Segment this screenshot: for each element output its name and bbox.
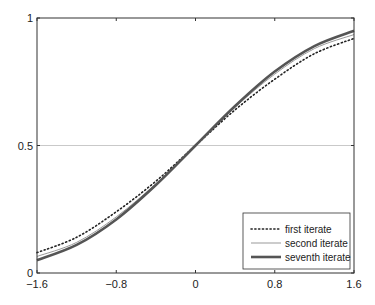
- line-chart: −1.6−0.800.81.6 00.51 first iteratesecon…: [0, 0, 375, 305]
- legend-label: seventh iterate: [285, 252, 351, 263]
- legend: first iteratesecond iterateseventh itera…: [243, 213, 351, 269]
- x-tick-label: −1.6: [26, 278, 48, 290]
- legend-label: second iterate: [285, 238, 348, 249]
- y-tick-label: 0: [27, 267, 33, 279]
- x-tick-label: 0.8: [267, 278, 282, 290]
- x-tick-label: 1.6: [346, 278, 361, 290]
- x-tick-label: 0: [192, 278, 198, 290]
- y-tick-label: 0.5: [18, 140, 33, 152]
- y-tick-label: 1: [27, 12, 33, 24]
- legend-label: first iterate: [285, 224, 332, 235]
- x-tick-label: −0.8: [105, 278, 127, 290]
